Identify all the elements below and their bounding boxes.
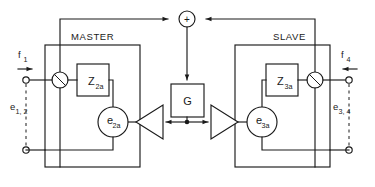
slave-amplifier-triangle [211,105,238,139]
right-effort-symbol: e [333,101,338,112]
master-subsystem-box [45,45,140,167]
master-section-label: MASTER [71,31,114,42]
right-flow-symbol: f [341,49,344,60]
slave-section-label: SLAVE [273,31,306,42]
schematic-svg: MASTER SLAVE + G Z [0,0,375,187]
block-diagram-canvas: MASTER SLAVE + G Z [0,0,375,187]
slave-subsystem-box [235,45,330,167]
right-effort-subscript: 3, 4 [339,107,351,116]
left-top-terminal [23,77,29,83]
slave-impedance-subscript: 3a [285,82,293,91]
left-effort-subscript: 1, 2 [16,107,28,116]
summing-junction-sign: + [184,14,190,25]
master-source-return-wire [45,137,113,150]
slave-impedance-symbol: Z [277,75,284,87]
master-impedance-subscript: 2a [96,82,104,91]
right-top-terminal [346,77,352,83]
master-impedance-symbol: Z [88,75,95,87]
left-flow-symbol: f [18,49,21,60]
slave-source-return-wire [262,137,330,150]
right-flow-subscript: 4 [347,55,351,64]
slave-effort-source-subscript: 3a [262,121,270,130]
master-effort-source-subscript: 2a [113,121,121,130]
left-effort-symbol: e [10,101,15,112]
gain-block-label: G [183,95,192,107]
left-flow-subscript: 1 [24,55,28,64]
